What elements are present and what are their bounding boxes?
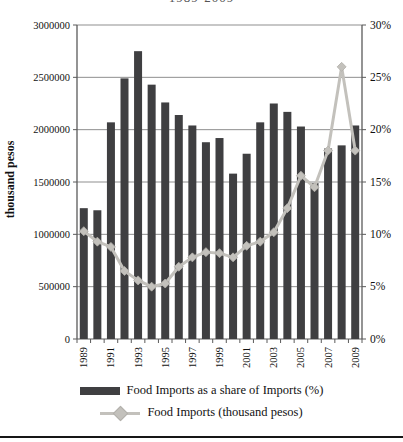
chart-legend: Food Imports as a share of Imports (%) F… [0, 381, 403, 422]
chart-svg: 0500000100000015000002000000250000030000… [0, 0, 403, 442]
x-axis-year-label: 2003 [268, 347, 279, 368]
bar [324, 149, 332, 339]
bar [202, 142, 210, 339]
bar [216, 138, 224, 339]
left-axis-tick-label: 500000 [39, 281, 71, 292]
x-axis-year-label: 1991 [105, 347, 116, 368]
line-point-diamond [337, 62, 346, 71]
bar [93, 210, 101, 339]
right-axis-tick-label: 20% [370, 123, 392, 135]
bar [311, 183, 319, 339]
bar [161, 102, 169, 339]
x-axis-year-label: 1999 [214, 347, 225, 368]
bar [188, 125, 196, 339]
bar [270, 104, 278, 340]
left-axis-tick-label: 1500000 [33, 177, 70, 188]
left-axis-tick-label: 2500000 [33, 72, 70, 83]
x-axis-year-label: 1993 [133, 347, 144, 368]
x-axis-year-label: 1997 [187, 347, 198, 368]
right-axis-tick-label: 5% [370, 280, 386, 292]
bar [256, 122, 264, 339]
plot-area: 0500000100000015000002000000250000030000… [0, 0, 403, 442]
x-axis-year-label: 2009 [350, 347, 361, 368]
x-axis-year-label: 2005 [295, 347, 306, 368]
bar [283, 112, 291, 339]
chart-figure: 1989-2009 050000010000001500000200000025… [0, 0, 403, 442]
right-axis-tick-label: 10% [370, 228, 392, 240]
bottom-border-rule [0, 436, 403, 438]
right-axis-tick-label: 30% [370, 19, 392, 31]
x-axis-year-label: 1989 [78, 347, 89, 368]
x-axis-year-label: 2007 [323, 347, 334, 368]
right-axis-tick-label: 25% [370, 71, 392, 83]
bar [338, 145, 346, 339]
legend-item-bars: Food Imports as a share of Imports (%) [80, 381, 324, 400]
bar [107, 122, 115, 339]
legend-item-line: Food Imports (thousand pesos) [100, 403, 302, 422]
line-series-swatch [100, 407, 140, 419]
legend-label-line: Food Imports (thousand pesos) [147, 405, 302, 420]
left-axis-tick-label: 3000000 [33, 20, 70, 31]
right-axis-tick-label: 15% [370, 176, 392, 188]
left-axis-tick-label: 2000000 [33, 124, 70, 135]
bar [121, 78, 129, 339]
bar [175, 115, 183, 339]
bar [297, 127, 305, 339]
left-axis-tick-label: 1000000 [33, 229, 70, 240]
x-axis-year-label: 1995 [160, 347, 171, 368]
bar [134, 51, 142, 339]
left-axis-title: thousand pesos [3, 110, 18, 250]
legend-label-bars: Food Imports as a share of Imports (%) [127, 383, 324, 398]
diamond-marker-icon [113, 405, 129, 421]
bar [148, 85, 156, 339]
left-axis-tick-label: 0 [65, 334, 70, 345]
bar [351, 125, 359, 339]
right-axis-tick-label: 0% [370, 333, 386, 345]
bar-series-swatch [80, 387, 120, 395]
x-axis-year-label: 2001 [241, 347, 252, 368]
